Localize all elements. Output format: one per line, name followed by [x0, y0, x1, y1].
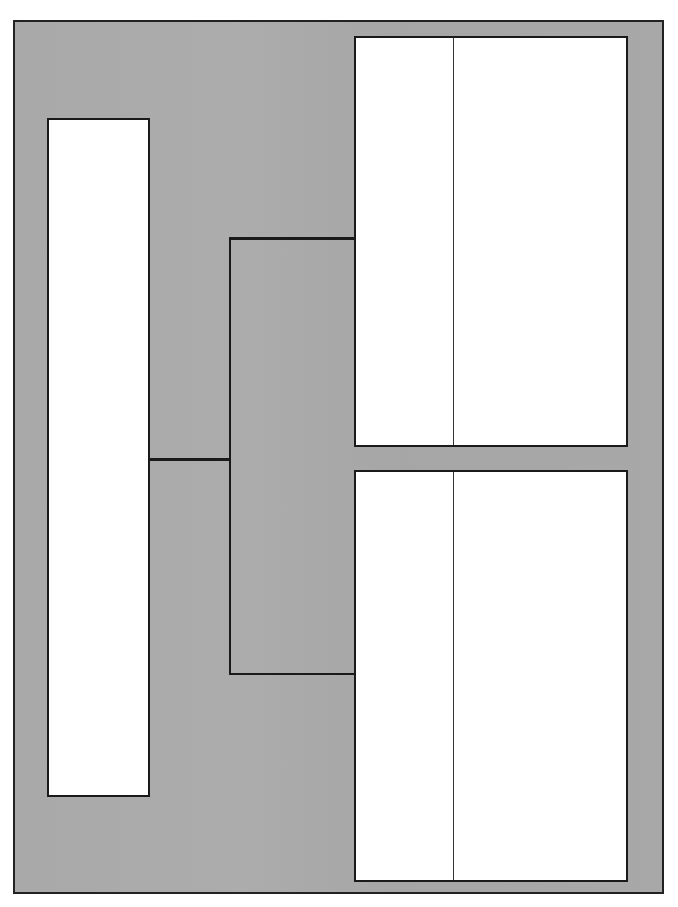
diagram-canvas: [0, 0, 678, 907]
top-right-box-column-divider: [453, 38, 454, 445]
connector-left-horizontal: [149, 458, 231, 461]
top-right-box: [354, 36, 628, 447]
bottom-right-box: [354, 470, 628, 882]
left-box: [47, 118, 150, 797]
bottom-right-box-column-divider: [453, 472, 454, 880]
connector-vertical-bracket: [229, 237, 232, 675]
connector-bottom-branch: [229, 673, 356, 676]
connector-top-branch: [229, 237, 356, 240]
